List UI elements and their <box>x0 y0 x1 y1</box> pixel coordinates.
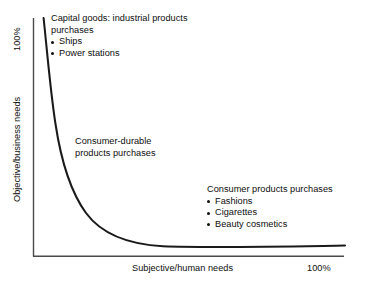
annotation-consumer-products: Consumer products purchases Fashions Cig… <box>207 184 333 230</box>
annotation-capital-goods-line2: purchases <box>51 25 188 37</box>
chart-figure: Capital goods: industrial products purch… <box>0 0 366 290</box>
annotation-consumer-products-bullet-2: Cigarettes <box>207 207 333 219</box>
x-axis-max-tick-label: 100% <box>307 263 331 275</box>
annotation-consumer-products-bullet-3-label: Beauty cosmetics <box>215 219 287 229</box>
annotation-consumer-products-bullet-1: Fashions <box>207 196 333 208</box>
annotation-capital-goods-line1: Capital goods: industrial products <box>51 13 188 25</box>
y-axis-title: Objective/business needs <box>12 97 24 202</box>
annotation-consumer-products-line1: Consumer products purchases <box>207 184 333 196</box>
annotation-capital-goods-bullet-1: Ships <box>51 36 188 48</box>
annotation-capital-goods-bullet-1-label: Ships <box>59 36 82 46</box>
y-axis-max-tick-label: 100% <box>12 27 24 51</box>
bullet-dot-icon <box>207 223 210 226</box>
annotation-consumer-durable-line2: products purchases <box>75 148 156 160</box>
annotation-capital-goods-bullet-2-label: Power stations <box>59 48 120 58</box>
annotation-capital-goods: Capital goods: industrial products purch… <box>51 13 188 59</box>
bullet-dot-icon <box>207 200 210 203</box>
annotation-consumer-products-bullet-3: Beauty cosmetics <box>207 219 333 231</box>
annotation-consumer-products-bullet-2-label: Cigarettes <box>215 207 257 217</box>
annotation-consumer-products-bullet-1-label: Fashions <box>215 196 252 206</box>
bullet-dot-icon <box>207 212 210 215</box>
bullet-dot-icon <box>51 52 54 55</box>
bullet-dot-icon <box>51 41 54 44</box>
annotation-consumer-durable: Consumer-durable products purchases <box>75 136 156 159</box>
annotation-consumer-durable-line1: Consumer-durable <box>75 136 156 148</box>
x-axis-title: Subjective/human needs <box>132 263 233 275</box>
annotation-capital-goods-bullet-2: Power stations <box>51 48 188 60</box>
